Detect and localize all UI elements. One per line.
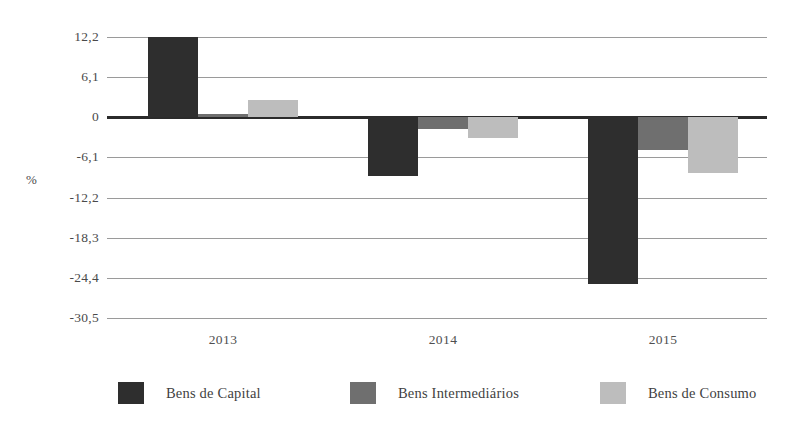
bar-consumo-2015 bbox=[688, 117, 738, 173]
x-axis-label-2013: 2013 bbox=[209, 332, 238, 348]
x-axis-label-2015: 2015 bbox=[649, 332, 678, 348]
y-axis-tick-label: 0 bbox=[13, 109, 99, 125]
bar-capital-2013 bbox=[148, 37, 198, 117]
bar-chart: % 12,26,10-6,1-12,2-18,3-24,4-30,5 20132… bbox=[0, 0, 796, 448]
y-axis-tick-label: -12,2 bbox=[13, 190, 99, 206]
bar-intermediario-2015 bbox=[638, 117, 688, 149]
legend-label: Bens de Consumo bbox=[648, 385, 757, 402]
bar-intermediario-2013 bbox=[198, 114, 248, 117]
y-axis-tick-label: -18,3 bbox=[13, 230, 99, 246]
legend-label: Bens de Capital bbox=[166, 385, 261, 402]
bar-intermediario-2014 bbox=[418, 117, 468, 129]
x-axis-category-labels: 201320142015 bbox=[107, 332, 767, 356]
gridline bbox=[107, 157, 767, 158]
x-axis-label-2014: 2014 bbox=[429, 332, 458, 348]
bar-capital-2015 bbox=[588, 117, 638, 283]
bar-consumo-2014 bbox=[468, 117, 518, 138]
chart-legend: Bens de CapitalBens IntermediáriosBens d… bbox=[0, 382, 796, 416]
gridline bbox=[107, 198, 767, 199]
legend-swatch-icon bbox=[600, 382, 626, 404]
legend-item-2[interactable]: Bens Intermediários bbox=[350, 382, 519, 404]
y-axis-tick-label: -24,4 bbox=[13, 270, 99, 286]
legend-item-3[interactable]: Bens de Consumo bbox=[600, 382, 757, 404]
y-axis-tick-label: 12,2 bbox=[13, 29, 99, 45]
y-axis-tick-label: 6,1 bbox=[13, 69, 99, 85]
y-axis-tick-label: -30,5 bbox=[13, 310, 99, 326]
legend-item-1[interactable]: Bens de Capital bbox=[118, 382, 261, 404]
gridline bbox=[107, 77, 767, 78]
gridline bbox=[107, 318, 767, 319]
legend-label: Bens Intermediários bbox=[398, 385, 519, 402]
y-axis-tick-labels: 12,26,10-6,1-12,2-18,3-24,4-30,5 bbox=[0, 37, 99, 318]
legend-swatch-icon bbox=[350, 382, 376, 404]
gridline bbox=[107, 278, 767, 279]
legend-swatch-icon bbox=[118, 382, 144, 404]
gridline bbox=[107, 238, 767, 239]
y-axis-tick-label: -6,1 bbox=[13, 149, 99, 165]
gridline bbox=[107, 37, 767, 38]
plot-area bbox=[107, 37, 767, 318]
bar-consumo-2013 bbox=[248, 100, 298, 118]
bar-capital-2014 bbox=[368, 117, 418, 176]
